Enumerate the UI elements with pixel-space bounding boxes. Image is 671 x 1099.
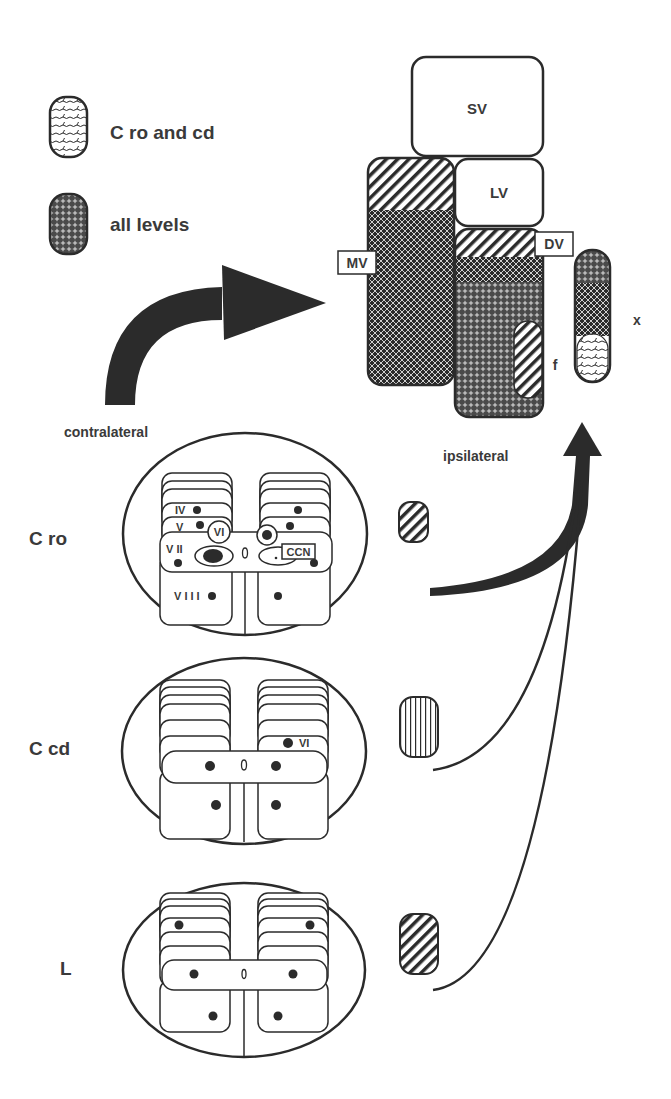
legend: C ro and cd all levels [50,97,215,254]
lamina-iv-label: IV [175,504,186,516]
lamina-vi-label: VI [299,737,309,749]
diagonal-stripe-marker-icon [400,914,438,974]
legend-item-all-levels: all levels [50,194,189,254]
lamina-viii-label: V I I I [174,590,200,602]
ccn-label: CCN [287,546,311,558]
sv-label: SV [467,100,487,117]
f-label: f [553,357,558,373]
arrowhead-icon [563,422,602,456]
arrowhead-icon [222,265,326,340]
ipsilateral-label: ipsilateral [443,448,508,464]
f-subregion-oval [514,321,542,398]
contralateral-arrow: contralateral [64,265,326,440]
legend-label: C ro and cd [110,122,215,143]
ipsilateral-arrow: ipsilateral [430,422,602,990]
x-label: x [633,312,641,328]
legend-item-c-ro-and-cd: C ro and cd [50,97,215,157]
level-l: L [60,883,438,1057]
lamina-vii-label: V II [166,543,183,555]
diagram-canvas: C ro and cd all levels SV f LV [0,0,671,1099]
mv-label: MV [347,255,369,271]
lamina-v-label: V [176,521,184,533]
diagonal-stripe-marker-icon [399,502,428,542]
mv-nucleus-box [368,158,454,385]
vestibular-complex: SV f LV MV DV x [338,57,641,417]
contralateral-label: contralateral [64,424,148,440]
level-c-ro: C ro IV V VI V II [29,433,428,635]
x-nucleus-capsule [575,250,610,336]
level-label: C ro [29,528,67,549]
lamina-vi-label: VI [214,526,224,538]
dv-label: DV [544,236,564,252]
level-c-cd: C cd VI [29,658,438,844]
level-label: L [60,958,72,979]
level-label: C cd [29,738,70,759]
lv-label: LV [490,184,508,201]
vertical-stripe-marker-icon [400,697,438,757]
legend-label: all levels [110,214,189,235]
dotted-cross-pattern-swatch-icon [50,194,87,254]
wavy-pattern-swatch-icon [50,97,87,157]
